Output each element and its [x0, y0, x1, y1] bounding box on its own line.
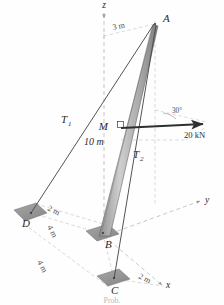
- point-label-c: C: [111, 284, 119, 296]
- axis-label-y: y: [204, 195, 210, 205]
- cable-label-t2: T 2: [133, 148, 144, 163]
- cable-label-t2-main: T: [133, 148, 140, 160]
- point-label-a: A: [162, 12, 170, 24]
- cable-label-t1-main: T: [61, 113, 68, 125]
- coordinate-axes: [104, 14, 200, 285]
- joint-dot-a: [154, 23, 156, 25]
- axis-y-line: [104, 201, 200, 236]
- dimension-label-4m-db: 4 m: [45, 224, 59, 240]
- dimension-label-2m-d: 2 m: [46, 204, 62, 218]
- dimension-label-4m-bc: 4 m: [35, 259, 49, 275]
- point-label-b: B: [105, 238, 112, 250]
- dimension-label-10m: 10 m: [84, 136, 104, 147]
- axis-label-x: x: [165, 280, 171, 290]
- joint-dot-c: [113, 277, 115, 279]
- statics-diagram: z y x A M B C D T 1 T 2 3 m 10 m 2 m 4 m…: [0, 0, 224, 305]
- point-label-d: D: [21, 217, 30, 229]
- cable-label-t1: T 1: [61, 113, 72, 128]
- dimension-label-2m-c: 2 m: [137, 272, 153, 286]
- force-angle-label: 30°: [172, 107, 182, 115]
- right-angle-at-M-marker: [118, 122, 124, 128]
- cable-label-t1-sub: 1: [68, 120, 72, 128]
- ground-offset-d: [36, 204, 107, 225]
- joint-dot-b: [102, 232, 104, 234]
- point-label-m: M: [98, 120, 109, 132]
- joint-dot-d: [30, 212, 32, 214]
- force-magnitude-label: 20 kN: [184, 130, 206, 140]
- dimension-label-3m: 3 m: [112, 21, 127, 32]
- cable-label-t2-sub: 2: [140, 155, 144, 163]
- axis-z-cap: [103, 14, 106, 18]
- figure-caption: Prob.: [103, 296, 120, 305]
- figure-container: z y x A M B C D T 1 T 2 3 m 10 m 2 m 4 m…: [0, 0, 224, 305]
- axis-label-z: z: [101, 0, 106, 10]
